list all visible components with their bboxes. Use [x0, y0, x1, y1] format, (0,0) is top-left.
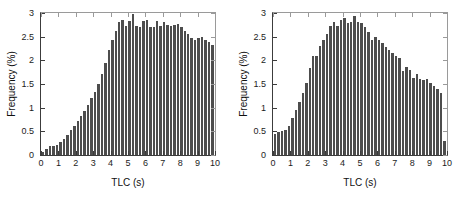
y-axis-tick: [273, 84, 277, 85]
histogram-bar: [426, 79, 428, 155]
x-axis-tick: [343, 151, 344, 155]
histogram-bar: [309, 68, 311, 155]
y-axis-tick-mirror: [443, 37, 447, 38]
histogram-bar: [94, 92, 96, 155]
x-axis-tick: [93, 151, 94, 155]
histogram-bar: [381, 43, 383, 155]
histogram-bar: [315, 56, 317, 155]
x-axis-tick-label: 1: [56, 159, 61, 168]
x-axis-tick: [215, 151, 216, 155]
histogram-bar: [364, 27, 366, 155]
x-axis-tick-label: 7: [392, 159, 397, 168]
x-axis-tick: [163, 151, 164, 155]
histogram-bar: [357, 22, 359, 155]
x-axis-tick-mirror: [198, 13, 199, 17]
x-axis-tick-mirror: [111, 13, 112, 17]
y-axis-tick-mirror: [211, 131, 215, 132]
histogram-bar: [340, 20, 342, 155]
plot-area-left: 00.511.522.53012345678910: [40, 12, 216, 156]
histogram-bar: [322, 40, 324, 155]
histogram-bar: [45, 149, 47, 155]
histogram-bar: [284, 130, 286, 155]
histogram-bar: [139, 27, 141, 155]
y-axis-tick-label: 2: [261, 56, 266, 65]
y-axis-tick: [273, 155, 277, 156]
x-axis-tick-mirror: [215, 13, 216, 17]
histogram-bar: [101, 74, 103, 155]
histogram-bar: [132, 14, 134, 155]
x-axis-tick: [111, 151, 112, 155]
histogram-bar: [353, 16, 355, 155]
y-axis-tick-label: 0: [261, 151, 266, 160]
y-axis-tick-label: 3: [261, 9, 266, 18]
y-axis-tick-mirror: [443, 108, 447, 109]
histogram-bar: [204, 40, 206, 155]
y-axis-tick-label: 0.5: [21, 127, 34, 136]
x-axis-tick-mirror: [447, 13, 448, 17]
x-axis-tick-label: 2: [73, 159, 78, 168]
histogram-bar: [201, 37, 203, 155]
histogram-bar: [70, 130, 72, 155]
histogram-bar: [66, 135, 68, 155]
histogram-bar: [277, 132, 279, 155]
y-axis-tick-mirror: [211, 155, 215, 156]
histogram-bar: [177, 24, 179, 155]
y-axis-tick-label: 2: [29, 56, 34, 65]
histogram-bar: [388, 50, 390, 155]
y-axis-tick-mirror: [211, 84, 215, 85]
x-axis-tick: [308, 151, 309, 155]
histogram-bar: [97, 84, 99, 155]
histogram-bar: [312, 56, 314, 155]
plot-area-right: 00.511.522.53012345678910: [272, 12, 448, 156]
bar-series-right: [273, 13, 447, 155]
x-axis-tick-label: 1: [288, 159, 293, 168]
x-axis-tick: [145, 151, 146, 155]
x-axis-tick-mirror: [308, 13, 309, 17]
x-axis-tick-mirror: [145, 13, 146, 17]
x-axis-tick-label: 4: [108, 159, 113, 168]
histogram-bar: [125, 26, 127, 155]
y-axis-tick-label: 1: [29, 103, 34, 112]
y-axis-tick-mirror: [443, 155, 447, 156]
histogram-bar: [180, 27, 182, 155]
histogram-bar: [135, 26, 137, 155]
histogram-bar: [443, 141, 445, 155]
x-axis-tick-label: 6: [375, 159, 380, 168]
histogram-bar: [326, 34, 328, 155]
x-axis-tick: [430, 151, 431, 155]
x-axis-tick-label: 9: [195, 159, 200, 168]
bar-series-left: [41, 13, 215, 155]
x-axis-tick-mirror: [395, 13, 396, 17]
histogram-bar: [347, 23, 349, 155]
histogram-bar: [163, 22, 165, 155]
y-axis-tick-mirror: [211, 37, 215, 38]
x-axis-tick: [198, 151, 199, 155]
histogram-bar: [319, 46, 321, 155]
histogram-bar: [49, 146, 51, 155]
y-axis-tick-mirror: [443, 131, 447, 132]
histogram-bar: [378, 40, 380, 155]
y-axis-tick: [41, 37, 45, 38]
x-axis-tick: [180, 151, 181, 155]
y-axis-title-left: Frequency (%): [7, 24, 17, 144]
histogram-bar: [159, 26, 161, 155]
y-axis-tick-label: 1: [261, 103, 266, 112]
x-axis-tick-label: 8: [410, 159, 415, 168]
x-axis-tick: [41, 151, 42, 155]
x-axis-tick-label: 0: [270, 159, 275, 168]
x-axis-tick-mirror: [325, 13, 326, 17]
histogram-bar: [419, 79, 421, 155]
histogram-bar: [412, 78, 414, 155]
x-axis-tick-mirror: [76, 13, 77, 17]
x-axis-tick: [412, 151, 413, 155]
x-axis-tick: [395, 151, 396, 155]
histogram-bar: [429, 83, 431, 155]
histogram-figure: Frequency (%) 00.511.522.53012345678910 …: [0, 0, 464, 198]
chart-panel-left: Frequency (%) 00.511.522.53012345678910 …: [0, 0, 232, 198]
histogram-bar: [166, 25, 168, 155]
histogram-bar: [52, 146, 54, 155]
histogram-bar: [142, 21, 144, 155]
x-axis-tick-label: 2: [305, 159, 310, 168]
x-axis-tick-mirror: [343, 13, 344, 17]
histogram-bar: [194, 40, 196, 155]
